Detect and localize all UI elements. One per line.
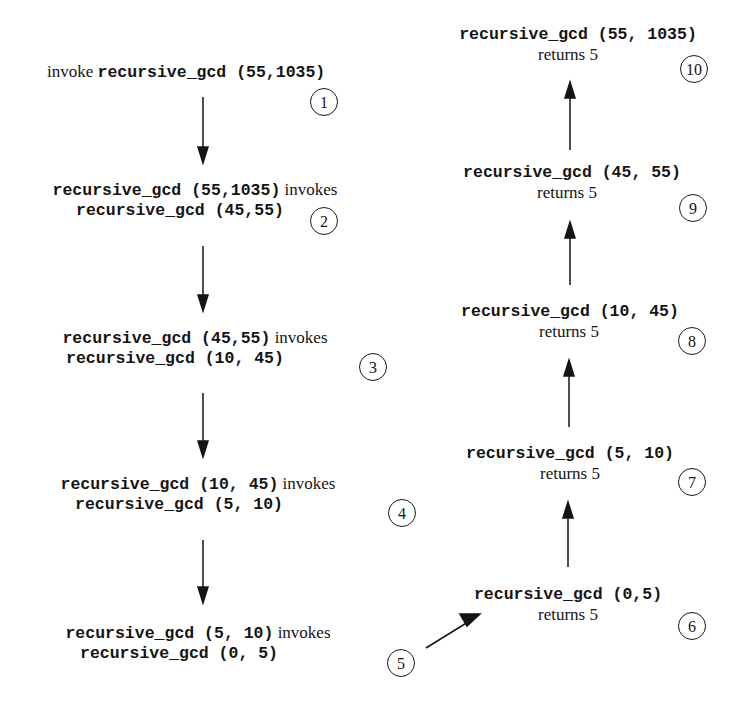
flow-arrows — [0, 0, 745, 704]
arrow-5-to-6 — [426, 622, 468, 648]
